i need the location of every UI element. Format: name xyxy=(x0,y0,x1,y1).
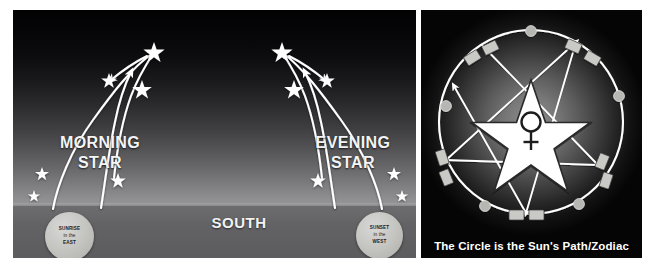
zodiac-circle-panel: The Circle is the Sun's Path/Zodiac xyxy=(421,10,642,258)
date-plaque xyxy=(509,210,524,220)
ring-dot xyxy=(614,91,625,102)
zodiac-caption: The Circle is the Sun's Path/Zodiac xyxy=(421,240,642,252)
date-plaque xyxy=(599,172,613,189)
date-plaque xyxy=(595,153,610,171)
south-direction-label: SOUTH xyxy=(189,214,289,231)
sunset-west-marker: SUNSET in the WEST xyxy=(356,212,403,258)
date-plaque xyxy=(463,50,481,66)
evening-star-label: EVENING STAR xyxy=(301,133,405,172)
morning-rising-path xyxy=(53,53,153,209)
sunrise-east-marker: SUNRISE in the EAST xyxy=(45,212,94,258)
venus-star-markers xyxy=(28,42,408,202)
star-marker xyxy=(284,80,304,99)
ring-dot xyxy=(526,26,537,37)
ring-dot xyxy=(480,201,491,212)
date-plaque xyxy=(439,169,454,187)
sky-scene-panel: MORNING STAR EVENING STAR SOUTH SUNRISE … xyxy=(13,10,416,258)
ring-dot xyxy=(574,199,585,210)
morning-star-label: MORNING STAR xyxy=(47,133,153,172)
date-plaque xyxy=(583,50,601,66)
star-marker xyxy=(28,190,40,202)
star-marker xyxy=(310,173,326,188)
sunset-marker-line3: WEST xyxy=(370,239,390,246)
sunrise-marker-line1: SUNRISE xyxy=(59,226,80,233)
star-marker xyxy=(110,173,126,188)
star-marker xyxy=(132,80,152,99)
sunset-marker-line1: SUNSET xyxy=(370,225,390,232)
ring-dot xyxy=(441,101,452,112)
date-plaque xyxy=(565,39,583,54)
venus-cycle-diagram: MORNING STAR EVENING STAR SOUTH SUNRISE … xyxy=(0,0,654,267)
evening-star-label-line1: EVENING xyxy=(301,133,405,153)
date-plaque xyxy=(435,149,449,166)
morning-star-label-line2: STAR xyxy=(47,153,153,173)
pentagram-zodiac-graphic xyxy=(421,10,642,258)
venus-center-star xyxy=(472,80,591,192)
morning-star-label-line1: MORNING xyxy=(47,133,153,153)
sunrise-marker-line2: in the xyxy=(59,233,80,240)
star-marker xyxy=(396,190,408,202)
sunset-marker-line2: in the xyxy=(370,232,390,239)
date-plaque xyxy=(529,210,544,220)
star-marker xyxy=(319,73,335,88)
sunrise-marker-line3: EAST xyxy=(59,240,80,247)
star-marker xyxy=(101,73,117,88)
evening-star-label-line2: STAR xyxy=(301,153,405,173)
